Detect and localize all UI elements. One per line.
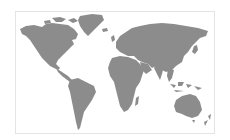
- indonesia: [170, 82, 202, 92]
- arctic-islands: [44, 17, 78, 24]
- tasmania: [192, 120, 195, 123]
- north-america: [20, 23, 78, 70]
- india: [154, 64, 164, 80]
- world-map: [16, 12, 214, 133]
- australia: [174, 94, 202, 118]
- southeast-asia: [167, 68, 174, 82]
- iceland: [102, 28, 108, 32]
- british-isles: [111, 35, 115, 42]
- central-america: [56, 68, 72, 82]
- madagascar: [135, 96, 139, 106]
- japan: [192, 45, 198, 54]
- south-america: [68, 78, 96, 130]
- map-frame: [15, 11, 215, 134]
- africa: [108, 56, 144, 112]
- new-zealand: [204, 114, 211, 126]
- greenland: [78, 14, 104, 36]
